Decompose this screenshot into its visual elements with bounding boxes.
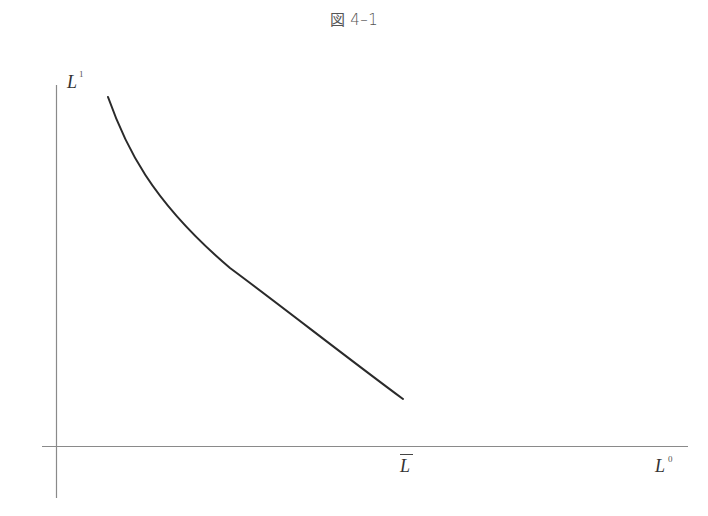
l-bar-label: L: [399, 456, 410, 476]
frontier-curve: [108, 97, 403, 399]
x-axis-label: L: [654, 456, 665, 476]
x-axis-label-superscript: 0: [668, 454, 673, 464]
y-axis-label: L: [66, 72, 77, 92]
y-axis-label-superscript: 1: [79, 69, 84, 79]
diagram-canvas: L 1 L 0 L: [0, 0, 708, 516]
